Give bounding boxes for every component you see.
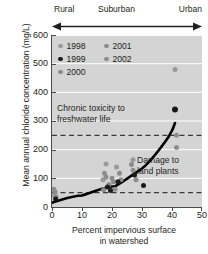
- y-tick-mark: [52, 121, 56, 122]
- zone-label-suburban: Suburban: [98, 4, 135, 14]
- annotation-line: land plants: [137, 166, 207, 177]
- zone-label-urban: Urban: [179, 4, 202, 14]
- data-point: [53, 196, 58, 201]
- x-tick-mark: [142, 207, 143, 211]
- legend-dot-icon: [104, 57, 109, 62]
- data-point: [104, 174, 109, 179]
- x-tick-label: 10: [70, 211, 94, 220]
- x-tick-label: 20: [100, 211, 124, 220]
- data-point: [174, 145, 179, 150]
- data-point: [134, 177, 139, 182]
- x-axis-title: Percent impervious surface in watershed: [40, 225, 208, 247]
- data-point: [117, 171, 122, 176]
- legend-column-right: 2001 2002: [104, 40, 132, 66]
- x-tick-label: 30: [130, 211, 154, 220]
- data-point: [114, 164, 119, 169]
- annotation-land-plants: Damage to land plants: [137, 155, 207, 176]
- data-point: [104, 162, 109, 167]
- legend-label: 1998: [67, 41, 86, 51]
- y-tick-mark: [52, 178, 56, 179]
- data-point: [131, 168, 136, 173]
- y-tick-label: 100: [18, 174, 48, 183]
- legend-dot-icon: [58, 70, 63, 75]
- data-point: [116, 179, 121, 184]
- x-axis-title-line1: Percent impervious surface: [40, 225, 208, 236]
- x-axis-title-line2: in watershed: [40, 236, 208, 247]
- data-point: [141, 183, 146, 188]
- legend-label: 2002: [113, 54, 132, 64]
- y-tick-mark: [52, 64, 56, 65]
- legend-label: 1999: [67, 54, 86, 64]
- legend-dot-icon: [58, 44, 63, 49]
- legend-item-2002: 2002: [104, 53, 132, 65]
- data-point: [108, 188, 113, 193]
- chart-figure: Rural Suburban Urban Mean annual chlorid…: [0, 0, 208, 254]
- data-point: [111, 179, 116, 184]
- legend-column-left: 1998 1999 2000: [58, 40, 86, 79]
- y-tick-mark: [52, 150, 56, 151]
- x-tick-label: 50: [190, 211, 208, 220]
- y-tick-label: 300: [18, 116, 48, 125]
- y-tick-label: 600: [18, 31, 48, 40]
- y-tick-mark: [52, 92, 56, 93]
- legend-item-1998: 1998: [58, 40, 86, 52]
- annotation-line: freshwater life: [57, 114, 157, 125]
- double-headed-arrow-icon: [52, 22, 202, 31]
- y-tick-label: 400: [18, 88, 48, 97]
- legend-dot-icon: [104, 44, 109, 49]
- legend-dot-icon: [58, 57, 63, 62]
- data-point: [129, 162, 134, 167]
- zone-label-rural: Rural: [54, 4, 74, 14]
- y-tick-label: 200: [18, 145, 48, 154]
- y-tick-label: 500: [18, 59, 48, 68]
- data-point: [174, 133, 179, 138]
- legend-label: 2000: [67, 67, 86, 77]
- legend-label: 2001: [113, 41, 132, 51]
- x-tick-mark: [172, 207, 173, 211]
- x-axis-line: [51, 207, 202, 208]
- x-tick-mark: [201, 207, 202, 211]
- y-tick-mark: [52, 35, 56, 36]
- x-tick-label: 40: [160, 211, 184, 220]
- x-tick-label: 0: [40, 211, 64, 220]
- x-tick-mark: [112, 207, 113, 211]
- x-tick-mark: [82, 207, 83, 211]
- annotation-line: Damage to: [137, 155, 207, 166]
- annotation-line: Chronic toxicity to: [57, 103, 157, 114]
- legend-item-2000: 2000: [58, 66, 86, 78]
- annotation-chronic-toxicity: Chronic toxicity to freshwater life: [57, 103, 157, 124]
- data-point: [172, 107, 178, 113]
- data-point: [173, 67, 178, 72]
- data-points: [52, 67, 179, 202]
- legend-item-2001: 2001: [104, 40, 132, 52]
- data-point: [113, 187, 118, 192]
- x-tick-mark: [52, 207, 53, 211]
- legend-item-1999: 1999: [58, 53, 86, 65]
- data-point: [131, 157, 136, 162]
